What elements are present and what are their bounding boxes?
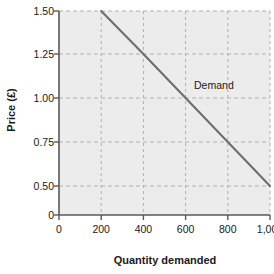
demand-curve-chart: Price (£) 00.500.751.001.251.50 Demand 0… bbox=[0, 0, 274, 274]
x-tick-label: 200 bbox=[92, 223, 110, 235]
x-tick-label: 0 bbox=[56, 223, 62, 235]
x-tick-label: 1,000 bbox=[257, 223, 274, 235]
x-tick-label: 600 bbox=[177, 223, 195, 235]
x-tick-label: 800 bbox=[219, 223, 237, 235]
x-tick-label: 400 bbox=[135, 223, 153, 235]
x-axis-title: Quantity demanded bbox=[58, 254, 272, 266]
x-axis-tick-labels: 02004006008001,000 bbox=[0, 0, 274, 274]
